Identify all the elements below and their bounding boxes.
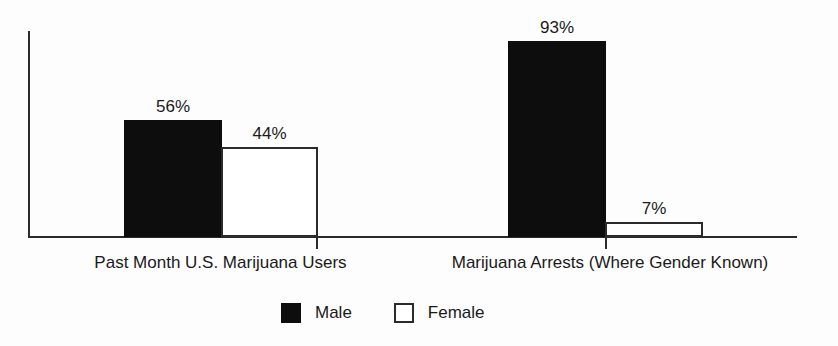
x-axis-tick-2 <box>605 238 607 249</box>
category-label-marijuana-arrests: Marijuana Arrests (Where Gender Known) <box>405 252 815 273</box>
legend-label-female: Female <box>428 303 485 323</box>
bar-male-past-month-users <box>124 120 222 237</box>
legend-label-male: Male <box>315 303 352 323</box>
bar-male-marijuana-arrests <box>508 41 606 237</box>
legend-swatch-male-icon <box>281 303 301 323</box>
chart-legend: Male Female <box>281 303 485 323</box>
bar-female-past-month-users <box>221 147 318 237</box>
legend-item-male: Male <box>281 303 352 323</box>
legend-swatch-female-icon <box>394 303 414 323</box>
bar-chart: 56% 44% 93% 7% Past Month U.S. Marijuana… <box>0 0 838 346</box>
value-label-male-marijuana-arrests: 93% <box>508 18 606 37</box>
y-axis-line <box>28 31 30 238</box>
value-label-male-past-month-users: 56% <box>124 97 222 116</box>
x-axis-tick-1 <box>316 238 318 249</box>
value-label-female-past-month-users: 44% <box>221 124 318 143</box>
legend-item-female: Female <box>394 303 485 323</box>
value-label-female-marijuana-arrests: 7% <box>605 199 703 218</box>
category-label-past-month-users: Past Month U.S. Marijuana Users <box>28 252 413 273</box>
bar-female-marijuana-arrests <box>605 222 703 237</box>
